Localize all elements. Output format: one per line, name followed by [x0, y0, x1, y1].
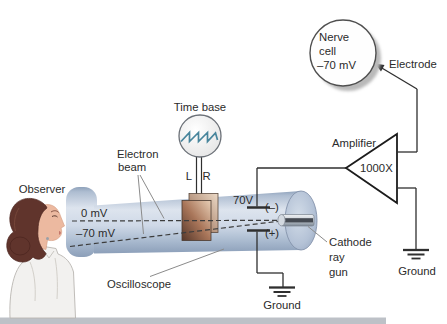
ground-symbol-bottom	[269, 288, 295, 297]
observer-figure	[7, 198, 76, 318]
nerve-cell-line3: –70 mV	[317, 59, 356, 71]
voltage-label: 70V	[233, 194, 254, 206]
electrode-label: Electrode	[389, 58, 437, 70]
cathode-gun-label-line1: Cathode	[329, 236, 372, 248]
gun-core	[283, 218, 313, 222]
plate-l-label: L	[186, 170, 192, 182]
trace-0mv-label: 0 mV	[81, 207, 108, 219]
minus-plate-label: (–)	[265, 201, 279, 213]
cathode-gun-label-line3: gun	[329, 266, 348, 278]
ground-bottom-label: Ground	[263, 299, 301, 311]
page-edge-strip	[0, 318, 386, 324]
oscilloscope-label: Oscilloscope	[107, 278, 171, 290]
observer-label: Observer	[19, 183, 66, 195]
electrode-wire-diag	[381, 68, 417, 90]
ground-right-label: Ground	[398, 265, 436, 277]
observer-earring	[46, 237, 49, 240]
oscilloscope-pointer	[150, 249, 224, 277]
time-base-label: Time base	[174, 101, 226, 113]
cathode-ray-gun	[278, 215, 314, 227]
amplifier-label: Amplifier	[332, 137, 376, 149]
gain-label: 1000X	[360, 162, 393, 174]
cathode-gun-label-line2: ray	[329, 251, 345, 263]
oscilloscope-nerve-diagram: 0 mV –70 mV Ground 70V (–) (+) Amplifier…	[0, 0, 447, 324]
electron-beam-label-line1: Electron	[117, 148, 158, 160]
time-base: Time base L R	[174, 101, 226, 182]
ground-symbol-right	[403, 250, 429, 259]
diagram-canvas: 0 mV –70 mV Ground 70V (–) (+) Amplifier…	[0, 0, 447, 324]
trace-minus70mv-label: –70 mV	[76, 227, 115, 239]
nerve-cell: Nerve cell –70 mV	[310, 20, 381, 91]
nerve-cell-line2: cell	[319, 45, 336, 57]
plus-plate-label: (+)	[265, 227, 279, 239]
electron-beam-label-line2: beam	[118, 161, 146, 173]
gun-tip	[278, 215, 285, 226]
plate-r-label: R	[202, 170, 210, 182]
nerve-cell-line1: Nerve	[319, 31, 349, 43]
